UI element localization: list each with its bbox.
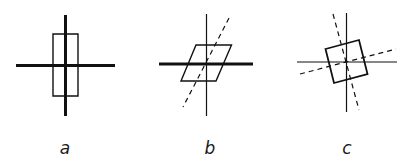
panel-labels: a b c [60, 138, 353, 158]
panel-label-a: a [60, 138, 70, 158]
panel-label-c: c [342, 138, 352, 158]
panel-b [159, 14, 253, 116]
panels [16, 13, 397, 116]
panel-label-b: b [205, 138, 216, 158]
panel-a [16, 15, 115, 116]
diagram-figure: a b c [0, 0, 411, 162]
panel-c [297, 13, 397, 112]
